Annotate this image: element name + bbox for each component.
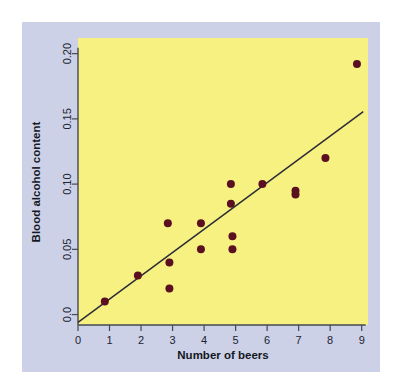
figure-panel: 0.00.050.100.150.20 0123456789 Number of… bbox=[22, 22, 380, 372]
x-tick-label: 5 bbox=[233, 334, 239, 346]
data-point bbox=[353, 60, 361, 68]
y-tick-label: 0.20 bbox=[61, 43, 73, 64]
y-axis-title: Blood alcohol content bbox=[30, 121, 42, 242]
x-tick-label: 6 bbox=[264, 334, 270, 346]
data-point bbox=[165, 284, 173, 292]
data-point bbox=[197, 245, 205, 253]
x-axis-title: Number of beers bbox=[177, 349, 268, 361]
scatter-plot: 0.00.050.100.150.20 0123456789 Number of… bbox=[22, 22, 380, 372]
data-point bbox=[227, 180, 235, 188]
data-point bbox=[321, 154, 329, 162]
x-tick-label: 9 bbox=[359, 334, 365, 346]
data-point bbox=[134, 271, 142, 279]
data-point bbox=[292, 191, 300, 199]
data-point bbox=[197, 219, 205, 227]
y-tick-label: 0.0 bbox=[61, 307, 73, 322]
data-point bbox=[228, 245, 236, 253]
x-tick-label: 0 bbox=[75, 334, 81, 346]
data-point bbox=[227, 200, 235, 208]
data-point bbox=[165, 258, 173, 266]
x-tick-label: 7 bbox=[296, 334, 302, 346]
data-point bbox=[228, 232, 236, 240]
x-tick-label: 2 bbox=[138, 334, 144, 346]
x-tick-label: 3 bbox=[170, 334, 176, 346]
x-tick-label: 1 bbox=[106, 334, 112, 346]
plot-area bbox=[78, 38, 368, 325]
data-point bbox=[164, 219, 172, 227]
data-point bbox=[101, 298, 109, 306]
x-tick-label: 8 bbox=[327, 334, 333, 346]
x-tick-label: 4 bbox=[201, 334, 207, 346]
data-point bbox=[258, 180, 266, 188]
y-tick-label: 0.10 bbox=[61, 173, 73, 194]
x-axis: 0123456789 bbox=[75, 325, 366, 346]
y-axis: 0.00.050.100.150.20 bbox=[61, 43, 78, 325]
y-tick-label: 0.05 bbox=[61, 239, 73, 260]
y-tick-label: 0.15 bbox=[61, 108, 73, 129]
